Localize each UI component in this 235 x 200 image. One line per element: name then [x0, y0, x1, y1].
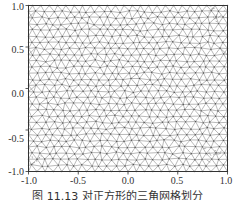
x-tick-label: -0.5 [63, 176, 93, 186]
mesh-figure [0, 0, 235, 200]
triangle-mesh [28, 5, 228, 172]
figure-caption: 图 11.13 对正方形的三角网格划分 [0, 190, 235, 200]
x-tick-label: 0.0 [113, 176, 143, 186]
y-tick-label: -0.5 [0, 134, 24, 144]
x-tick-label: -1.0 [14, 176, 44, 186]
y-tick-label: 0.0 [0, 89, 24, 99]
y-tick-label: 1.0 [0, 2, 24, 12]
x-tick-label: 0.5 [162, 176, 192, 186]
caption-text: 图 11.13 对正方形的三角网格划分 [32, 190, 202, 200]
y-tick-label: 0.5 [0, 45, 24, 55]
x-tick-label: 1.0 [211, 176, 235, 186]
